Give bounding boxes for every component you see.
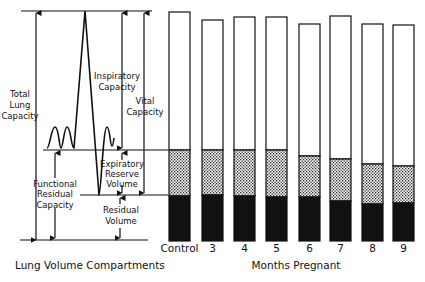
residual-volume-segment <box>234 196 255 241</box>
x-tick-label: 9 <box>400 242 407 254</box>
expiratory-reserve-segment <box>266 150 287 197</box>
bar-9: 9 <box>393 25 414 254</box>
inspiratory-capacity-segment <box>299 24 320 156</box>
svg-text:Lung: Lung <box>10 100 31 110</box>
residual-volume-segment <box>202 195 223 241</box>
expiratory-reserve-segment <box>169 150 190 196</box>
inspiratory-capacity-segment <box>330 16 351 159</box>
inspiratory-capacity-segment <box>393 25 414 166</box>
expiratory-reserve-segment <box>330 159 351 201</box>
svg-text:Capacity: Capacity <box>1 111 38 121</box>
x-axis-title: Months Pregnant <box>252 259 341 271</box>
expiratory-reserve-segment <box>234 150 255 196</box>
expiratory-reserve-segment <box>202 150 223 195</box>
x-tick-label: 4 <box>241 242 248 254</box>
svg-text:Volume: Volume <box>105 216 137 226</box>
inspiratory-capacity-segment <box>234 17 255 150</box>
x-tick-label: 3 <box>209 242 216 254</box>
bar-4: 4 <box>234 17 255 254</box>
svg-text:Reserve: Reserve <box>105 169 139 179</box>
erv-label: Expiratory <box>100 159 144 169</box>
tlc-label: Total <box>9 89 30 99</box>
residual-volume-segment <box>169 196 190 241</box>
bar-control: Control <box>161 12 199 254</box>
bar-7: 7 <box>330 16 351 254</box>
svg-text:Capacity: Capacity <box>126 107 163 117</box>
inspiratory-capacity-segment <box>202 20 223 150</box>
residual-volume-segment <box>299 197 320 241</box>
rv-label: Residual <box>103 205 139 215</box>
stacked-bar-chart: Control3456789 <box>161 12 414 254</box>
inspiratory-capacity-segment <box>266 17 287 150</box>
x-tick-label: 6 <box>306 242 313 254</box>
svg-text:Capacity: Capacity <box>98 82 135 92</box>
bar-8: 8 <box>362 24 383 254</box>
residual-volume-segment <box>393 203 414 241</box>
svg-text:Capacity: Capacity <box>36 200 73 210</box>
ic-label: Inspiratory <box>94 71 140 81</box>
x-tick-label: 8 <box>369 242 376 254</box>
left-caption: Lung Volume Compartments <box>15 259 165 271</box>
bar-6: 6 <box>299 24 320 254</box>
x-tick-label: Control <box>161 242 199 254</box>
svg-text:Residual: Residual <box>37 189 73 199</box>
residual-volume-segment <box>362 204 383 241</box>
inspiratory-capacity-segment <box>169 12 190 150</box>
vc-label: Vital <box>136 96 155 106</box>
x-tick-label: 5 <box>273 242 280 254</box>
expiratory-reserve-segment <box>362 164 383 204</box>
expiratory-reserve-segment <box>393 166 414 203</box>
residual-volume-segment <box>330 201 351 241</box>
x-tick-label: 7 <box>337 242 344 254</box>
diagram-labels: Total Lung Capacity Inspiratory Capacity… <box>1 71 163 226</box>
inspiratory-capacity-segment <box>362 24 383 164</box>
lung-volume-figure: Total Lung Capacity Inspiratory Capacity… <box>0 0 425 282</box>
svg-text:Volume: Volume <box>106 179 138 189</box>
bar-3: 3 <box>202 20 223 254</box>
frc-label: Functional <box>33 179 77 189</box>
expiratory-reserve-segment <box>299 156 320 197</box>
bar-5: 5 <box>266 17 287 254</box>
residual-volume-segment <box>266 197 287 241</box>
